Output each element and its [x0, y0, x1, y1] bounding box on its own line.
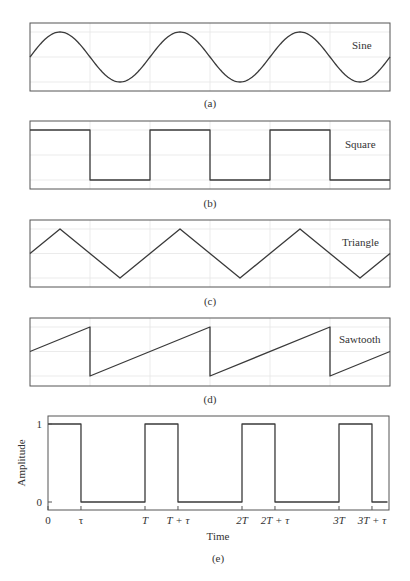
waveform-figure: Sine (a) Square (b) Triangle (c) Sawtoot… [0, 0, 410, 581]
x-axis-ticks: 0τTT + τ2T2T + τ3T3T + τ [45, 506, 387, 526]
panel-pulse: 01 0τTT + τ2T2T + τ3T3T + τ Amplitude Ti… [15, 416, 389, 565]
x-tick-label: 3T + τ [357, 514, 387, 526]
panel-triangle: Triangle (c) [30, 220, 390, 308]
series-label: Triangle [342, 236, 379, 248]
x-tick-label: T + τ [167, 514, 191, 526]
y-axis-ticks: 01 [37, 418, 53, 508]
y-axis-label: Amplitude [15, 439, 27, 486]
y-tick-label: 0 [37, 496, 43, 508]
panel-caption: (c) [204, 295, 217, 308]
x-tick-label: 0 [45, 514, 51, 526]
x-tick-label: τ [79, 514, 84, 526]
x-tick-label: 2T + τ [261, 514, 290, 526]
panel-square: Square (b) [30, 121, 390, 210]
y-tick-label: 1 [37, 418, 43, 430]
series-label: Sine [352, 39, 372, 51]
series-label: Sawtooth [339, 333, 381, 345]
x-tick-label: 2T [236, 514, 249, 526]
pulse-wave-line [48, 424, 388, 502]
series-label: Square [345, 138, 376, 150]
x-tick-label: T [142, 514, 149, 526]
panel-sawtooth: Sawtooth (d) [30, 318, 390, 406]
plot-frame [48, 416, 389, 510]
x-tick-label: 3T [332, 514, 346, 526]
panel-caption: (a) [204, 97, 217, 110]
x-axis-label: Time [207, 530, 230, 542]
panel-caption: (b) [204, 197, 217, 210]
panel-sine: Sine (a) [30, 23, 390, 110]
panel-caption: (d) [204, 393, 217, 406]
panel-caption: (e) [212, 552, 225, 565]
